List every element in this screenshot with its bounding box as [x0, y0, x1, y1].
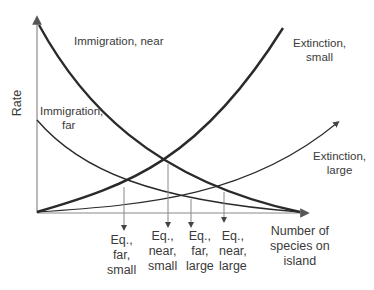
eq-line: Eq., [186, 229, 214, 244]
y-axis-label: Rate [10, 90, 24, 116]
x-axis-label: Number of species on island [270, 224, 330, 269]
extinction-large-line1: Extinction, [313, 149, 366, 163]
eq-line: large [219, 259, 247, 274]
x-axis-label-line: species on [270, 239, 330, 254]
eq-line: Eq., [148, 229, 177, 244]
eq-near-large-label: Eq., near, large [219, 229, 247, 274]
immigration-far-label: Immigration, far [40, 104, 103, 132]
extinction-small-label: Extinction, small [293, 36, 346, 64]
immigration-far-line1: Immigration, [40, 104, 103, 118]
eq-line: near, [148, 244, 177, 259]
eq-line: Eq., [107, 233, 136, 248]
eq-line: small [148, 259, 177, 274]
eq-far-small-label: Eq., far, small [107, 233, 136, 278]
eq-far-large-label: Eq., far, large [186, 229, 214, 274]
extinction-large-line2: large [313, 163, 366, 177]
extinction-small-line2: small [293, 50, 346, 64]
extinction-small-line1: Extinction, [293, 36, 346, 50]
x-axis-label-line: Number of [270, 224, 330, 239]
extinction-large-label: Extinction, large [313, 149, 366, 177]
eq-line: far, [107, 248, 136, 263]
immigration-near-label: Immigration, near [74, 34, 163, 48]
eq-line: far, [186, 244, 214, 259]
immigration-far-line2: far [40, 118, 103, 132]
eq-line: large [186, 259, 214, 274]
eq-line: Eq., [219, 229, 247, 244]
eq-line: near, [219, 244, 247, 259]
x-axis-label-line: island [270, 254, 330, 269]
eq-line: small [107, 263, 136, 278]
eq-near-small-label: Eq., near, small [148, 229, 177, 274]
